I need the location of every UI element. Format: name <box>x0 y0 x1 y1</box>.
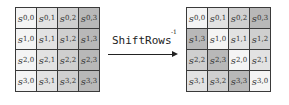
matrix-cell: s2,1 <box>250 50 270 70</box>
matrix-cell: s2,0 <box>16 50 36 70</box>
matrix-cell: s1,1 <box>229 29 249 49</box>
matrix-cell: s3,3 <box>79 71 99 91</box>
matrix-cell: s1,2 <box>58 29 78 49</box>
matrix-cell: s2,2 <box>58 50 78 70</box>
matrix-cell: s2,2 <box>187 50 207 70</box>
matrix-cell: s2,1 <box>37 50 57 70</box>
inverse-superscript: -1 <box>171 28 177 35</box>
matrix-cell: s0,0 <box>187 8 207 28</box>
transform-arrow: ShiftRows -1 <box>104 34 180 64</box>
matrix-cell: s1,3 <box>187 29 207 49</box>
matrix-cell: s1,1 <box>37 29 57 49</box>
matrix-cell: s3,3 <box>229 71 249 91</box>
matrix-cell: s3,2 <box>58 71 78 91</box>
matrix-cell: s1,2 <box>250 29 270 49</box>
matrix-cell: s0,2 <box>229 8 249 28</box>
matrix-cell: s1,0 <box>208 29 228 49</box>
state-matrix-before: s0,0s0,1s0,2s0,3s1,0s1,1s1,2s1,3s2,0s2,1… <box>15 7 100 92</box>
operation-label: ShiftRows <box>112 34 172 47</box>
matrix-cell: s3,0 <box>250 71 270 91</box>
matrix-cell: s2,3 <box>208 50 228 70</box>
matrix-cell: s0,2 <box>58 8 78 28</box>
matrix-cell: s3,2 <box>208 71 228 91</box>
matrix-cell: s0,3 <box>250 8 270 28</box>
matrix-cell: s2,3 <box>79 50 99 70</box>
matrix-cell: s2,0 <box>229 50 249 70</box>
arrow-line <box>108 54 174 55</box>
matrix-cell: s3,0 <box>16 71 36 91</box>
matrix-cell: s0,1 <box>208 8 228 28</box>
arrow-head-icon <box>172 51 178 57</box>
matrix-cell: s1,0 <box>16 29 36 49</box>
matrix-cell: s3,1 <box>37 71 57 91</box>
matrix-cell: s1,3 <box>79 29 99 49</box>
matrix-cell: s3,1 <box>187 71 207 91</box>
matrix-cell: s0,1 <box>37 8 57 28</box>
matrix-cell: s0,0 <box>16 8 36 28</box>
matrix-cell: s0,3 <box>79 8 99 28</box>
state-matrix-after: s0,0s0,1s0,2s0,3s1,3s1,0s1,1s1,2s2,2s2,3… <box>186 7 271 92</box>
